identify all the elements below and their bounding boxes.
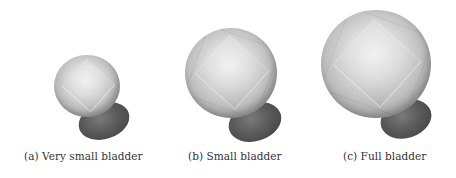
panel-very-small-bladder: (a) Very small bladder: [0, 0, 152, 178]
bladder-sphere: [54, 55, 120, 117]
caption-a: (a) Very small bladder: [24, 150, 143, 162]
panel-small-bladder: (b) Small bladder: [152, 0, 308, 178]
caption-b: (b) Small bladder: [188, 150, 282, 162]
caption-c: (c) Full bladder: [343, 150, 426, 162]
bladder-sphere: [185, 28, 277, 118]
bladder-sphere: [321, 10, 431, 118]
panel-full-bladder: (c) Full bladder: [308, 0, 456, 178]
